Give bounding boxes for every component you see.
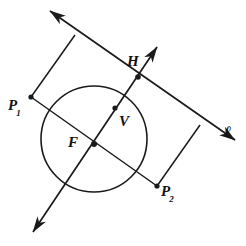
point-dot-v [112, 105, 117, 110]
geometry-figure: P1 P2 H V F ℓ [0, 0, 246, 246]
point-dot-h [135, 74, 141, 80]
label-p2-subscript: 2 [169, 194, 174, 204]
circle [41, 86, 147, 192]
label-v: V [119, 114, 129, 129]
label-p1: P1 [8, 98, 22, 116]
label-h: H [127, 54, 139, 69]
point-dot-p2 [154, 183, 159, 188]
label-f: F [68, 135, 78, 150]
label-p1-subscript: 1 [16, 108, 21, 118]
point-dot-p1 [28, 94, 33, 99]
label-p2: P2 [161, 184, 175, 202]
segment-perp-p1 [31, 35, 75, 97]
point-dot-f [91, 141, 97, 147]
line-l [50, 11, 235, 140]
label-line-l: ℓ [224, 124, 231, 140]
segment-perp-p2 [157, 125, 200, 186]
